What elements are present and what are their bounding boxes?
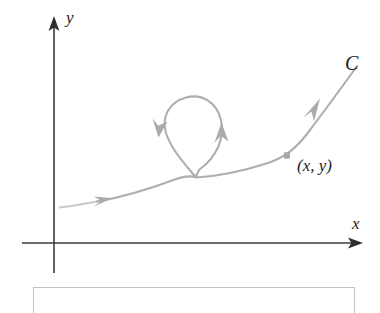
- x-axis-label: x: [352, 215, 360, 232]
- curve-c-main-path: [97, 66, 357, 202]
- curve-c: [60, 66, 357, 208]
- x-axis: [22, 238, 363, 249]
- caption-box: [33, 287, 355, 313]
- point-label-xy: (x, y): [297, 157, 332, 174]
- curve-arrowhead-up-right-icon: [304, 99, 321, 122]
- curve-label-c: C: [345, 53, 358, 73]
- y-axis: [49, 16, 60, 273]
- y-axis-label: y: [66, 9, 74, 26]
- curve-point-marker: [284, 153, 289, 158]
- curve-c-tail-segment: [60, 201, 99, 207]
